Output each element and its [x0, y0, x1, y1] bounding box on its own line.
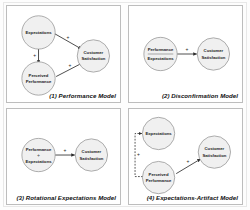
node-expectations-label: Expectations — [147, 56, 174, 61]
panel-3-diagram: + Performance ÷ Expectations Customer Sa… — [7, 109, 120, 204]
figure-container: + + + Expectations Perceived Performance… — [0, 0, 250, 210]
node-perceived-performance-label-2: Performance — [146, 178, 172, 183]
sign-performance-to-satisfaction: + — [68, 63, 71, 68]
node-expectations-label: Expectations — [25, 159, 52, 164]
panel-3-caption: (3) Rotational Expectations Model — [17, 194, 117, 201]
node-perceived-performance-label-2: Performance — [26, 79, 52, 84]
node-customer-satisfaction-label-2: Satisfaction — [81, 56, 105, 61]
panel-1-diagram: + + + Expectations Perceived Performance… — [7, 6, 120, 102]
panel-4-caption: (4) Expectations-Artifact Model — [147, 194, 238, 201]
node-customer-satisfaction-label-2: Satisfaction — [202, 153, 226, 158]
panel-rotational-expectations-model: + Performance ÷ Expectations Customer Sa… — [6, 108, 121, 205]
sign-performance-to-expectations: + — [137, 152, 140, 157]
node-customer-satisfaction-label-1: Customer — [84, 50, 104, 55]
panel-2-caption: (2) Disconfirmation Model — [162, 92, 238, 99]
sign-performance-to-satisfaction: + — [187, 159, 190, 164]
node-performance-label: Performance — [148, 47, 174, 52]
sign-disconfirmation-to-satisfaction: + — [186, 47, 189, 52]
node-expectations-label: Expectations — [25, 30, 52, 35]
node-performance-label: Performance — [26, 147, 52, 152]
node-customer-satisfaction-label-1: Customer — [204, 48, 224, 53]
sign-rotational-to-satisfaction: + — [64, 148, 67, 153]
node-customer-satisfaction-label-1: Customer — [205, 146, 225, 151]
node-customer-satisfaction-label-2: Satisfaction — [202, 55, 226, 60]
node-perceived-performance-label-1: Perceived — [149, 172, 169, 177]
node-expectations-label: Expectations — [145, 131, 172, 136]
node-customer-satisfaction-label-2: Satisfaction — [79, 156, 103, 161]
panel-performance-model: + + + Expectations Perceived Performance… — [6, 5, 121, 103]
panel-1-caption: (1) Performance Model — [49, 92, 116, 99]
node-customer-satisfaction-label-1: Customer — [82, 149, 102, 154]
sign-expectations-to-satisfaction: + — [66, 35, 69, 40]
panel-disconfirmation-model: + Performance Expectations Customer Sati… — [128, 5, 243, 103]
sign-expectations-to-performance: + — [33, 53, 36, 58]
node-perceived-performance-label-1: Perceived — [29, 73, 49, 78]
panel-expectations-artifact-model: + + Expectations Perceived Performance C… — [128, 108, 243, 205]
panel-4-diagram: + + Expectations Perceived Performance C… — [129, 109, 242, 204]
panel-2-diagram: + Performance Expectations Customer Sati… — [129, 6, 242, 102]
